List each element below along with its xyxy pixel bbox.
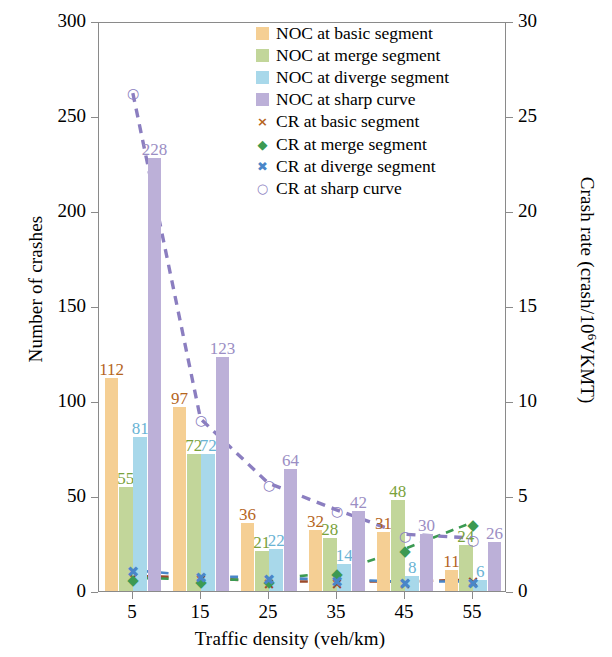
x-tick-35: 35 bbox=[316, 601, 356, 623]
legend-swatch-icon bbox=[256, 27, 269, 40]
legend-swatch-icon bbox=[256, 71, 269, 84]
bar-0-4 bbox=[377, 532, 391, 591]
line-marker-2-3: ✖ bbox=[331, 574, 344, 589]
legend-item-label: CR at merge segment bbox=[276, 134, 427, 155]
legend-item-label: NOC at merge segment bbox=[276, 45, 440, 66]
line-marker-2-4: ✖ bbox=[399, 576, 412, 591]
y-right-tickmark bbox=[506, 22, 513, 23]
bar-value-label-3-3: 42 bbox=[340, 493, 376, 513]
legend-item-label: NOC at basic segment bbox=[276, 23, 433, 44]
line-marker-2-0: ✖ bbox=[127, 565, 140, 580]
bar-3-5 bbox=[488, 542, 502, 591]
chart-figure: Number of crashes Crash rate (crash/106V… bbox=[0, 0, 612, 657]
y-right-tickmark bbox=[506, 117, 513, 118]
x-tickmark bbox=[472, 592, 473, 599]
y-right-tickmark bbox=[506, 307, 513, 308]
y-left-tick-150: 150 bbox=[42, 295, 86, 317]
line-marker-3-3: ○ bbox=[331, 504, 343, 518]
x-tickmark bbox=[268, 592, 269, 599]
legend-marker-icon: × bbox=[256, 115, 269, 128]
legend-item-5[interactable]: ◆CR at merge segment bbox=[256, 133, 449, 155]
x-tick-55: 55 bbox=[452, 601, 492, 623]
line-marker-3-4: ○ bbox=[399, 529, 411, 543]
y-right-tick-30: 30 bbox=[518, 10, 537, 32]
bar-value-label-3-2: 64 bbox=[272, 451, 308, 471]
y-left-tick-100: 100 bbox=[42, 390, 86, 412]
y-left-tick-200: 200 bbox=[42, 200, 86, 222]
y-left-tick-300: 300 bbox=[42, 10, 86, 32]
y-right-tickmark bbox=[506, 212, 513, 213]
y-left-tickmark bbox=[91, 307, 98, 308]
line-marker-3-5: ○ bbox=[467, 533, 479, 547]
y-axis-right-title-a: Crash rate (crash/10 bbox=[577, 177, 598, 334]
bar-3-1 bbox=[216, 357, 230, 591]
bar-value-label-0-0: 112 bbox=[94, 360, 130, 380]
x-tickmark bbox=[132, 592, 133, 599]
y-right-tick-0: 0 bbox=[518, 580, 528, 602]
bar-value-label-1-3: 28 bbox=[312, 520, 348, 540]
legend-swatch-icon bbox=[256, 93, 269, 106]
chart-legend: NOC at basic segmentNOC at merge segment… bbox=[256, 22, 449, 200]
bar-value-label-3-5: 26 bbox=[476, 524, 512, 544]
line-marker-3-0: ○ bbox=[127, 86, 139, 100]
y-left-tick-50: 50 bbox=[42, 485, 86, 507]
bar-value-label-0-1: 97 bbox=[162, 389, 198, 409]
line-marker-1-4: ◆ bbox=[399, 544, 411, 559]
bar-value-label-3-0: 228 bbox=[136, 140, 172, 160]
line-marker-3-2: ○ bbox=[263, 478, 275, 492]
legend-item-4[interactable]: ×CR at basic segment bbox=[256, 111, 449, 133]
x-axis-title: Traffic density (veh/km) bbox=[60, 628, 520, 650]
legend-item-label: CR at diverge segment bbox=[276, 156, 436, 177]
y-right-tick-5: 5 bbox=[518, 485, 528, 507]
legend-item-6[interactable]: ✖CR at diverge segment bbox=[256, 155, 449, 177]
legend-marker-icon: ○ bbox=[256, 182, 269, 195]
x-tickmark bbox=[404, 592, 405, 599]
bar-0-1 bbox=[173, 407, 187, 591]
y-right-tickmark bbox=[506, 592, 513, 593]
legend-item-label: NOC at diverge segment bbox=[276, 67, 449, 88]
line-marker-2-5: ✖ bbox=[467, 576, 480, 591]
y-right-tickmark bbox=[506, 497, 513, 498]
bar-value-label-3-4: 30 bbox=[408, 516, 444, 536]
y-right-tick-15: 15 bbox=[518, 295, 537, 317]
line-marker-3-1: ○ bbox=[195, 413, 207, 427]
y-left-tickmark bbox=[91, 402, 98, 403]
legend-item-label: CR at basic segment bbox=[276, 111, 419, 132]
bar-value-label-1-4: 48 bbox=[380, 482, 416, 502]
legend-marker-icon: ◆ bbox=[256, 138, 269, 151]
y-left-tickmark bbox=[91, 497, 98, 498]
line-marker-1-5: ◆ bbox=[467, 517, 479, 532]
y-right-tickmark bbox=[506, 402, 513, 403]
legend-item-3[interactable]: NOC at sharp curve bbox=[256, 89, 449, 111]
legend-item-7[interactable]: ○CR at sharp curve bbox=[256, 177, 449, 199]
x-tickmark bbox=[200, 592, 201, 599]
legend-item-0[interactable]: NOC at basic segment bbox=[256, 22, 449, 44]
y-left-tickmark bbox=[91, 117, 98, 118]
y-right-tick-10: 10 bbox=[518, 390, 537, 412]
y-left-tick-250: 250 bbox=[42, 105, 86, 127]
line-marker-2-1: ✖ bbox=[195, 570, 208, 585]
x-tick-45: 45 bbox=[384, 601, 424, 623]
bar-0-5 bbox=[445, 570, 459, 591]
x-tick-15: 15 bbox=[180, 601, 220, 623]
legend-item-1[interactable]: NOC at merge segment bbox=[256, 44, 449, 66]
y-left-tickmark bbox=[91, 592, 98, 593]
y-right-tick-20: 20 bbox=[518, 200, 537, 222]
legend-item-2[interactable]: NOC at diverge segment bbox=[256, 66, 449, 88]
y-axis-right-title-b: VKMT) bbox=[577, 340, 598, 403]
line-marker-2-2: ✖ bbox=[263, 572, 276, 587]
bar-3-3 bbox=[352, 511, 366, 591]
bar-value-label-0-2: 36 bbox=[230, 505, 266, 525]
y-left-tickmark bbox=[91, 22, 98, 23]
y-left-tickmark bbox=[91, 212, 98, 213]
x-tick-25: 25 bbox=[248, 601, 288, 623]
x-tickmark bbox=[336, 592, 337, 599]
legend-item-label: CR at sharp curve bbox=[276, 178, 402, 199]
y-left-tick-0: 0 bbox=[42, 580, 86, 602]
bar-value-label-3-1: 123 bbox=[204, 339, 240, 359]
y-right-tick-25: 25 bbox=[518, 105, 537, 127]
legend-item-label: NOC at sharp curve bbox=[276, 89, 415, 110]
x-tick-5: 5 bbox=[112, 601, 152, 623]
bar-3-0 bbox=[148, 158, 162, 591]
y-axis-right-title: Crash rate (crash/106VKMT) bbox=[576, 170, 600, 410]
